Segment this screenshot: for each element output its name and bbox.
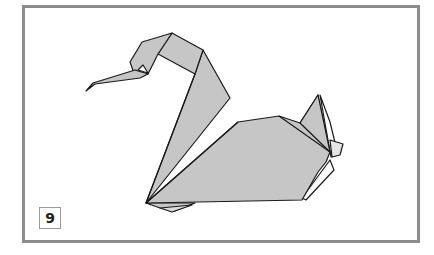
origami-swan-illustration bbox=[0, 0, 434, 255]
beak bbox=[86, 70, 148, 91]
tail-side-flap bbox=[330, 140, 343, 157]
step-number-badge: 9 bbox=[39, 207, 61, 229]
